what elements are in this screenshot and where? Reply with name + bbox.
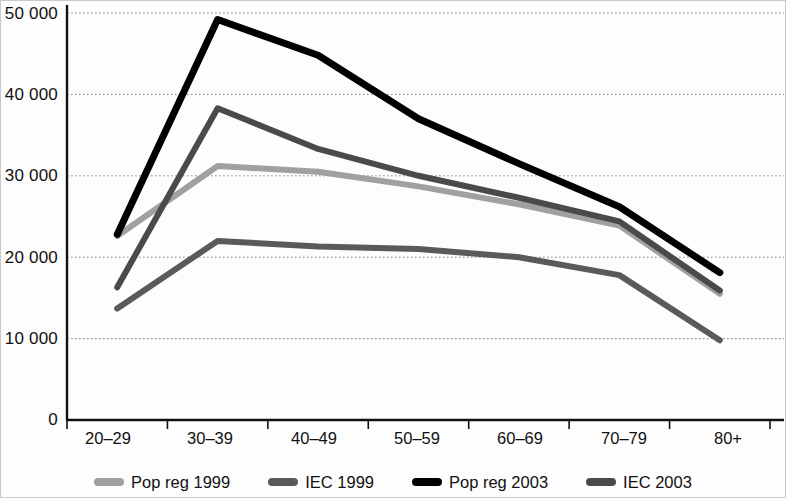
legend-item-label: Pop reg 1999 <box>131 474 230 491</box>
line-chart: 50 000 40 000 30 000 20 000 10 000 0 20–… <box>0 0 786 498</box>
plot-area <box>0 0 786 498</box>
legend-item: Pop reg 1999 <box>94 474 230 491</box>
legend-color-swatch <box>412 478 442 486</box>
legend-color-swatch <box>268 478 298 486</box>
legend-item-label: IEC 2003 <box>623 474 692 491</box>
legend-item: IEC 1999 <box>268 474 374 491</box>
legend-item-label: Pop reg 2003 <box>449 474 548 491</box>
chart-legend: Pop reg 1999 IEC 1999 Pop reg 2003 IEC 2… <box>0 466 786 498</box>
series-line-iec-1999 <box>117 241 720 340</box>
x-axis-tick-marks <box>67 420 770 429</box>
data-series-group <box>117 20 720 341</box>
legend-item: IEC 2003 <box>586 474 692 491</box>
legend-color-swatch <box>586 478 616 486</box>
axis-lines <box>66 5 784 420</box>
legend-item: Pop reg 2003 <box>412 474 548 491</box>
series-line-iec-2003 <box>117 108 720 290</box>
legend-color-swatch <box>94 478 124 486</box>
legend-item-label: IEC 1999 <box>305 474 374 491</box>
